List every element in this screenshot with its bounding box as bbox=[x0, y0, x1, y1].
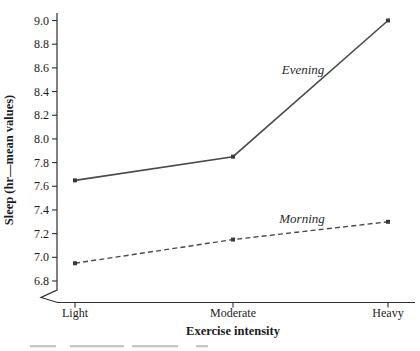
cropped-caption-fragment bbox=[30, 345, 208, 347]
morning-point-moderate bbox=[231, 238, 235, 242]
y-tick-label-6.8: 6.8 bbox=[34, 274, 49, 288]
sleep-by-exercise-intensity-line-chart: 9.08.88.68.48.28.07.87.67.47.27.06.8Ligh… bbox=[0, 0, 420, 351]
y-tick-label-7.0: 7.0 bbox=[34, 250, 49, 264]
y-axis-title: Sleep (hr—mean values) bbox=[2, 95, 16, 226]
evening-point-heavy bbox=[386, 19, 390, 23]
x-tick-label-light: Light bbox=[62, 306, 89, 320]
morning-line bbox=[75, 222, 388, 263]
y-tick-label-7.4: 7.4 bbox=[34, 203, 49, 217]
x-tick-label-heavy: Heavy bbox=[372, 306, 403, 320]
axes bbox=[41, 13, 415, 308]
y-tick-label-8.8: 8.8 bbox=[34, 37, 49, 51]
x-tick-label-moderate: Moderate bbox=[210, 306, 256, 320]
y-tick-label-7.8: 7.8 bbox=[34, 156, 49, 170]
y-tick-label-7.2: 7.2 bbox=[34, 227, 49, 241]
evening-point-moderate bbox=[231, 155, 235, 159]
y-tick-label-9.0: 9.0 bbox=[34, 14, 49, 28]
morning-point-light bbox=[73, 261, 77, 265]
y-tick-label-8.4: 8.4 bbox=[34, 85, 49, 99]
morning-point-heavy bbox=[386, 220, 390, 224]
tick-labels: 9.08.88.68.48.28.07.87.67.47.27.06.8Ligh… bbox=[34, 14, 404, 321]
x-axis-title: Exercise intensity bbox=[186, 324, 281, 338]
figure-canvas: 9.08.88.68.48.28.07.87.67.47.27.06.8Ligh… bbox=[0, 0, 420, 351]
data-series bbox=[73, 19, 390, 266]
y-tick-label-8.2: 8.2 bbox=[34, 108, 49, 122]
evening-point-light bbox=[73, 178, 77, 182]
y-tick-label-8.6: 8.6 bbox=[34, 61, 49, 75]
y-tick-label-7.6: 7.6 bbox=[34, 179, 49, 193]
y-tick-label-8.0: 8.0 bbox=[34, 132, 49, 146]
series-label-morning: Morning bbox=[278, 211, 325, 226]
series-label-evening: Evening bbox=[281, 62, 325, 77]
